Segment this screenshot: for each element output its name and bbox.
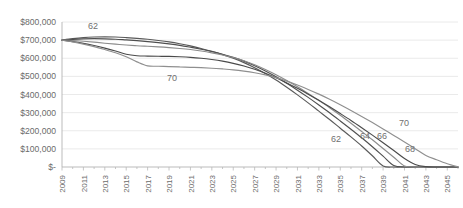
x-axis-tick-label: 2039 [379, 174, 388, 192]
x-axis-tick-label: 2013 [101, 174, 110, 192]
x-axis-tick-label: 2037 [358, 174, 367, 192]
series-annotation-70: 70 [399, 118, 409, 128]
x-axis-tick-label: 2015 [122, 174, 131, 192]
series-line-62 [62, 37, 458, 167]
x-axis-tick-label: 2025 [229, 174, 238, 192]
y-axis-tick-label: $700,000 [20, 35, 56, 45]
series-annotation-66: 66 [377, 131, 387, 141]
x-axis-tick-label: 2033 [315, 174, 324, 192]
x-axis-tick-label: 2041 [401, 174, 410, 192]
series-annotation-62: 62 [331, 134, 341, 144]
series-annotation-70: 70 [167, 73, 177, 83]
series-line-68 [62, 40, 458, 167]
y-axis-tick-label: $- [48, 162, 56, 172]
retirement-depletion-chart: $800,000$700,000$600,000$500,000$400,000… [0, 0, 463, 208]
y-axis-tick-label: $400,000 [20, 90, 56, 100]
chart-canvas: $800,000$700,000$600,000$500,000$400,000… [0, 0, 463, 208]
series-line-66 [62, 40, 458, 167]
x-axis-tick-label: 2045 [443, 174, 452, 192]
x-axis-tick-label: 2011 [80, 174, 89, 192]
series-line-70 [62, 40, 458, 167]
x-axis-tick-label: 2035 [336, 174, 345, 192]
x-axis-tick-label: 2031 [294, 174, 303, 192]
y-axis-tick-label: $800,000 [20, 17, 56, 27]
x-axis-tick-label: 2029 [272, 174, 281, 192]
y-axis-tick-label: $200,000 [20, 126, 56, 136]
x-axis-tick-label: 2009 [58, 174, 67, 192]
series-annotation-64: 64 [360, 131, 370, 141]
x-axis-tick-label: 2027 [251, 174, 260, 192]
y-axis-tick-label: $300,000 [20, 108, 56, 118]
y-axis-tick-label: $500,000 [20, 71, 56, 81]
series-annotation-68: 68 [405, 144, 415, 154]
y-axis-tick-label: $600,000 [20, 53, 56, 63]
x-axis-tick-label: 2043 [422, 174, 431, 192]
x-axis-tick-label: 2021 [187, 174, 196, 192]
series-annotation-62: 62 [88, 21, 98, 31]
x-axis-tick-label: 2019 [165, 174, 174, 192]
x-axis-tick-label: 2017 [144, 174, 153, 192]
y-axis-tick-label: $100,000 [20, 144, 56, 154]
x-axis-tick-label: 2023 [208, 174, 217, 192]
